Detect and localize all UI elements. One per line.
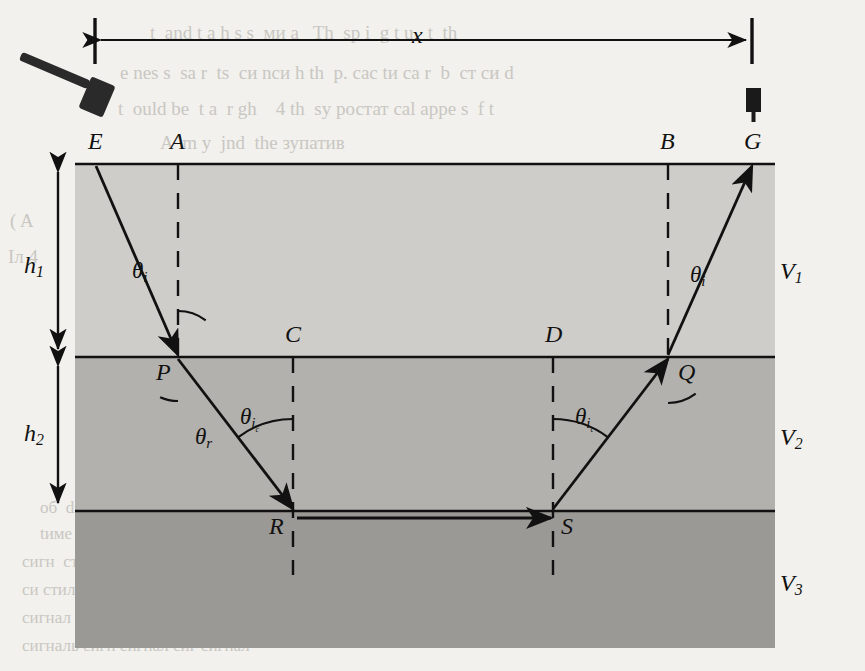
x-distance-label: x xyxy=(412,22,423,49)
angle-label-theta-i-right: θi xyxy=(690,262,706,290)
point-label-E: E xyxy=(88,128,103,155)
sledgehammer-icon xyxy=(19,52,116,118)
refraction-diagram xyxy=(0,0,865,671)
point-label-G: G xyxy=(744,128,761,155)
angle-label-theta-r: θr xyxy=(195,424,212,452)
point-label-A: A xyxy=(170,128,185,155)
velocity-label-V3: V3 xyxy=(780,570,803,599)
point-label-Q: Q xyxy=(678,359,695,386)
point-label-C: C xyxy=(285,321,301,348)
velocity-label-V2: V2 xyxy=(780,424,803,453)
x-distance-dimension xyxy=(95,18,752,64)
point-label-B: B xyxy=(660,128,675,155)
point-label-R: R xyxy=(269,513,284,540)
figure-canvas: t and t a h s s ми a Th sp i g t u t the… xyxy=(0,0,865,671)
angle-label-theta-ic-right: θic xyxy=(575,404,594,433)
angle-label-theta-i-left: θi xyxy=(132,258,148,286)
layer-V3 xyxy=(75,511,775,648)
geophone-icon xyxy=(746,88,761,122)
layer-V2 xyxy=(75,357,775,511)
layer-V1 xyxy=(75,164,775,357)
thickness-label-h2: h2 xyxy=(24,420,44,449)
velocity-layers xyxy=(75,164,775,648)
thickness-label-h1: h1 xyxy=(24,252,44,281)
velocity-label-V1: V1 xyxy=(780,258,803,287)
point-label-P: P xyxy=(156,359,171,386)
angle-label-theta-ic-left: θic xyxy=(240,404,259,433)
point-label-D: D xyxy=(545,321,562,348)
point-label-S: S xyxy=(561,513,573,540)
